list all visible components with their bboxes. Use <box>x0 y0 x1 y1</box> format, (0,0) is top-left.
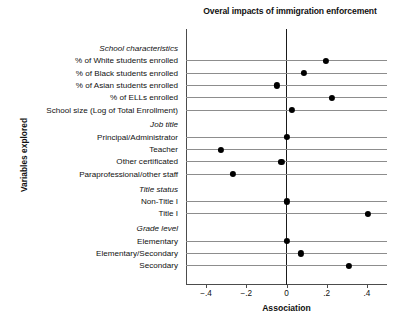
gridline <box>186 73 387 74</box>
group-header-title-status: Title status <box>139 184 178 193</box>
row-label: Title I <box>159 209 179 218</box>
plot-area <box>186 29 387 285</box>
row-label: Elementary/Secondary <box>96 248 178 257</box>
row-label: School size (Log of Total Enrollment) <box>46 105 178 114</box>
gridline <box>186 174 387 175</box>
gridline <box>186 149 387 150</box>
row-label: Teacher <box>149 145 178 154</box>
row-label: Non-Title I <box>141 196 178 205</box>
x-axis: Association −.4−.20.2.4 <box>186 285 387 327</box>
gridline <box>186 213 387 214</box>
x-tick-label: −.4 <box>200 289 212 298</box>
x-tick <box>246 285 247 288</box>
data-point <box>283 134 289 140</box>
x-tick <box>367 285 368 288</box>
row-label: Secondary <box>139 261 178 270</box>
data-point <box>300 70 306 76</box>
row-label: Principal/Administrator <box>97 132 178 141</box>
data-point <box>283 198 289 204</box>
gridline <box>186 253 387 254</box>
gridline <box>186 97 387 98</box>
x-tick-label: 0 <box>284 289 289 298</box>
x-tick <box>327 285 328 288</box>
x-tick-label: .2 <box>323 289 330 298</box>
x-tick <box>206 285 207 288</box>
gridline <box>186 85 387 86</box>
x-axis-title: Association <box>186 303 387 313</box>
row-label: % of ELLs enrolled <box>110 93 178 102</box>
zero-reference-line <box>286 29 287 285</box>
data-point <box>346 263 352 269</box>
group-header-job-title: Job title <box>150 120 178 129</box>
group-header-grade-level: Grade level <box>137 224 178 233</box>
gridline <box>186 161 387 162</box>
row-label: % of Black students enrolled <box>76 68 178 77</box>
row-label-column: School characteristics% of White student… <box>0 29 182 285</box>
chart-figure: Overal impacts of immigration enforcemen… <box>0 0 394 327</box>
gridline <box>186 265 387 266</box>
data-point <box>230 171 236 177</box>
data-point <box>298 250 304 256</box>
x-tick <box>287 285 288 288</box>
data-point <box>329 95 335 101</box>
data-point <box>283 238 289 244</box>
row-label: Other certificated <box>116 157 178 166</box>
gridline <box>186 110 387 111</box>
x-tick-label: −.2 <box>240 289 252 298</box>
data-point <box>288 107 294 113</box>
gridline <box>186 60 387 61</box>
row-label: % of White students enrolled <box>75 56 178 65</box>
row-label: Elementary <box>137 236 178 245</box>
row-label: % of Asian students enrolled <box>76 80 178 89</box>
data-point <box>218 146 224 152</box>
plot-frame-left <box>186 29 187 285</box>
data-point <box>274 82 280 88</box>
data-point <box>365 211 371 217</box>
x-tick-label: .4 <box>363 289 370 298</box>
data-point <box>278 159 284 165</box>
row-label: Paraprofessional/other staff <box>79 169 178 178</box>
chart-title: Overal impacts of immigration enforcemen… <box>186 6 394 16</box>
group-header-school-characteristics: School characteristics <box>99 44 178 53</box>
data-point <box>323 58 329 64</box>
